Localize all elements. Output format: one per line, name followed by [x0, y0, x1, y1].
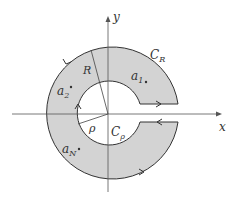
y-axis-label: y — [112, 10, 120, 24]
shaded-annular-region — [47, 47, 178, 179]
x-axis-arrow-icon — [216, 112, 222, 117]
x-axis-label: x — [219, 120, 226, 134]
point-aN — [78, 148, 80, 150]
outer-contour-label: CR — [150, 48, 165, 64]
y-axis-arrow-icon — [106, 16, 111, 22]
outer-radius-label: R — [82, 64, 91, 77]
keyhole-contour-diagram: y x CR Cρ R ρ a1 a2 aN — [0, 0, 237, 202]
point-a1 — [145, 81, 147, 83]
inner-radius-label: ρ — [88, 122, 96, 135]
point-a2 — [70, 86, 72, 88]
inner-contour-label: Cρ — [111, 125, 125, 141]
